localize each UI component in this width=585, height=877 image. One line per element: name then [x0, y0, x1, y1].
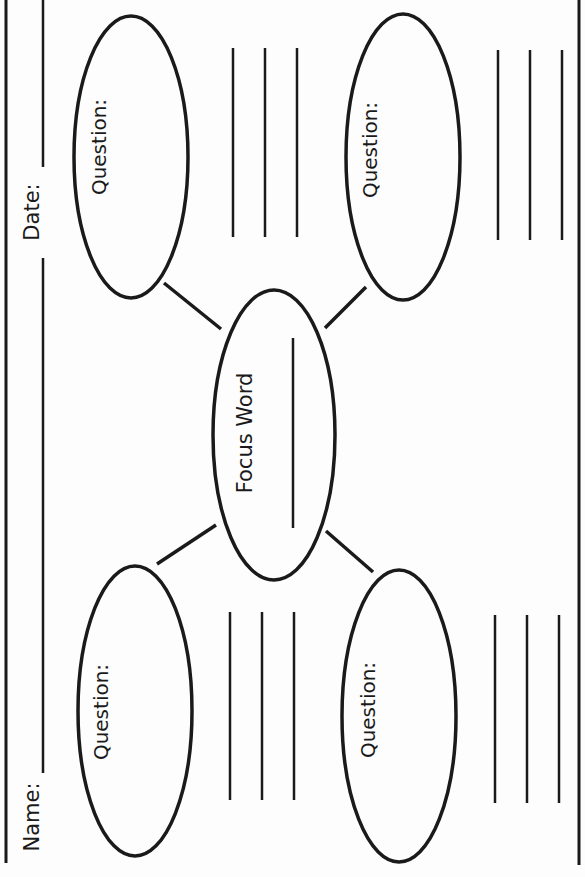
connector-top-right	[325, 287, 366, 328]
worksheet-page: Name: Date: Question: Question: Question…	[0, 0, 585, 877]
answer-area-bottom-left[interactable]	[217, 612, 307, 800]
answer-area-top-right[interactable]	[485, 50, 575, 240]
date-input-area[interactable]	[30, 0, 56, 167]
connector-bottom-right	[326, 531, 373, 572]
question-label-top-left: Question:	[89, 99, 109, 195]
answer-area-bottom-right[interactable]	[482, 615, 572, 803]
focus-word-bubble	[213, 290, 335, 580]
answer-area-top-left[interactable]	[220, 48, 310, 237]
question-label-top-right: Question:	[360, 102, 380, 198]
name-label: Name:	[22, 782, 43, 851]
connector-top-left	[164, 283, 221, 329]
date-label: Date:	[22, 183, 43, 240]
name-input-area[interactable]	[30, 258, 56, 773]
focus-word-label: Focus Word	[235, 373, 256, 494]
question-label-bottom-right: Question:	[358, 662, 378, 758]
connector-bottom-left	[157, 525, 216, 564]
question-label-bottom-left: Question:	[91, 664, 111, 760]
focus-word-input-area[interactable]	[283, 338, 305, 528]
